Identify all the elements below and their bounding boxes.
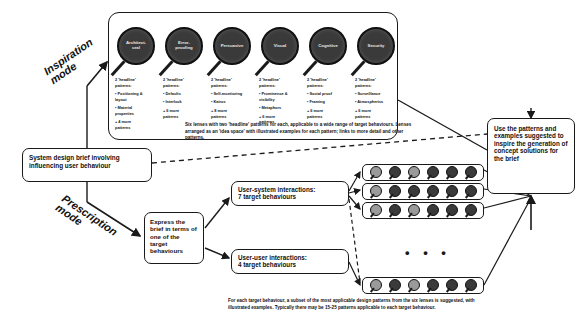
pattern-lens-icon[interactable]: [445, 204, 459, 218]
caption-inspiration: Six lenses with two 'headline' patterns …: [185, 122, 417, 142]
pattern-lens-icon[interactable]: [464, 185, 478, 199]
pattern-item: • Surveillance: [355, 91, 399, 97]
pattern-item: • Atmospherics: [355, 99, 399, 105]
pattern-item: • Kairos: [211, 99, 255, 105]
lens-architectural[interactable]: Architect- ural 2 'headline' patterns: •…: [113, 27, 157, 65]
pattern-lens-icon[interactable]: [464, 166, 478, 180]
lens-pattern-list-persuasive: 2 'headline' patterns: • Self-monitoring…: [211, 77, 255, 119]
more-patterns-label: + 6 more patterns: [307, 108, 351, 119]
lens-pattern-list-architectural: 2 'headline' patterns: • Positioning & l…: [115, 77, 159, 131]
pattern-lens-icon[interactable]: [369, 279, 383, 293]
headline-label: 2 'headline' patterns:: [259, 77, 303, 88]
pattern-item: • Social proof: [307, 91, 351, 97]
pattern-lens-icon[interactable]: [388, 185, 402, 199]
pattern-lens-icon[interactable]: [426, 185, 440, 199]
pattern-item: • Self-monitoring: [211, 91, 255, 97]
lens-handle-icon: [163, 61, 180, 78]
pattern-lens-icon[interactable]: [464, 279, 478, 293]
pattern-lens-icon[interactable]: [445, 279, 459, 293]
pattern-lens-icon[interactable]: [464, 204, 478, 218]
lens-handle-icon: [259, 61, 276, 78]
pattern-lens-icon[interactable]: [426, 204, 440, 218]
lens-handle-icon: [355, 61, 372, 78]
lens-pattern-list-error-proofing: 2 'headline' patterns: • Defaults • Inte…: [163, 77, 207, 119]
more-patterns-label: + 8 more patterns: [211, 108, 255, 119]
ellipsis-indicator: • • •: [405, 245, 451, 260]
pattern-row[interactable]: [362, 164, 484, 181]
lens-error-proofing[interactable]: Error- proofing 2 'headline' patterns: •…: [161, 27, 205, 65]
box-user-system-interactions[interactable]: User-system interactions: 7 target behav…: [231, 181, 349, 206]
pattern-lens-icon[interactable]: [388, 204, 402, 218]
pattern-row[interactable]: [362, 183, 484, 200]
caption-prescription: For each target behaviour, a subset of t…: [228, 298, 478, 312]
pattern-lens-icon[interactable]: [369, 166, 383, 180]
box-express-brief[interactable]: Express the brief in terms of one of the…: [144, 212, 204, 264]
mode-label-prescription: Prescription mode: [54, 193, 120, 247]
pattern-lens-icon[interactable]: [426, 166, 440, 180]
pattern-item: • Metaphors: [259, 105, 303, 111]
pattern-item: • Prominence & visibility: [259, 91, 303, 102]
mode-label-inspiration: Inspiration mode: [42, 37, 101, 87]
pattern-lens-icon[interactable]: [407, 279, 421, 293]
headline-label: 2 'headline' patterns:: [163, 77, 207, 88]
pattern-item: • Positioning & layout: [115, 91, 159, 102]
pattern-lens-icon[interactable]: [388, 279, 402, 293]
headline-label: 2 'headline' patterns:: [307, 77, 351, 88]
pattern-lens-icon[interactable]: [388, 166, 402, 180]
pattern-lens-icon[interactable]: [407, 204, 421, 218]
lens-pattern-list-visual: 2 'headline' patterns: • Prominence & vi…: [259, 77, 303, 125]
pattern-item: • Interlock: [163, 99, 207, 105]
lens-cognitive[interactable]: Cognitive 2 'headline' patterns: • Socia…: [305, 27, 349, 65]
pattern-row[interactable]: [362, 277, 484, 294]
pattern-lens-icon[interactable]: [445, 185, 459, 199]
pattern-lens-icon[interactable]: [369, 204, 383, 218]
headline-label: 2 'headline' patterns:: [355, 77, 399, 88]
box-system-design-brief[interactable]: System design brief involving influencin…: [22, 148, 152, 182]
lens-handle-icon: [211, 61, 228, 78]
pattern-item: • Material properties: [115, 105, 159, 116]
pattern-lens-icon[interactable]: [407, 185, 421, 199]
lens-pattern-list-security: 2 'headline' patterns: • Surveillance • …: [355, 77, 399, 119]
pattern-item: • Defaults: [163, 91, 207, 97]
lens-visual[interactable]: Visual 2 'headline' patterns: • Prominen…: [257, 27, 301, 65]
headline-label: 2 'headline' patterns:: [115, 77, 159, 88]
lens-handle-icon: [307, 61, 324, 78]
lens-handle-icon: [115, 61, 132, 78]
box-user-user-interactions[interactable]: User-user interactions: 4 target behavio…: [231, 249, 349, 274]
lens-persuasive[interactable]: Persuasive 2 'headline' patterns: • Self…: [209, 27, 253, 65]
lens-pattern-list-cognitive: 2 'headline' patterns: • Social proof • …: [307, 77, 351, 119]
box-use-patterns[interactable]: Use the patterns and examples suggested …: [487, 118, 575, 194]
inspiration-lens-panel: Architect- ural 2 'headline' patterns: •…: [108, 12, 398, 140]
more-patterns-label: + 6 more patterns: [355, 108, 399, 119]
pattern-item: • Framing: [307, 99, 351, 105]
lens-security[interactable]: Security 2 'headline' patterns: • Survei…: [353, 27, 397, 65]
pattern-row[interactable]: [362, 202, 484, 219]
headline-label: 2 'headline' patterns:: [211, 77, 255, 88]
diagram-canvas: Architect- ural 2 'headline' patterns: •…: [0, 0, 585, 332]
pattern-lens-icon[interactable]: [369, 185, 383, 199]
pattern-lens-icon[interactable]: [407, 166, 421, 180]
more-patterns-label: + 4 more patterns: [115, 119, 159, 130]
pattern-lens-icon[interactable]: [426, 279, 440, 293]
pattern-lens-icon[interactable]: [445, 166, 459, 180]
more-patterns-label: + 6 more patterns: [163, 108, 207, 119]
